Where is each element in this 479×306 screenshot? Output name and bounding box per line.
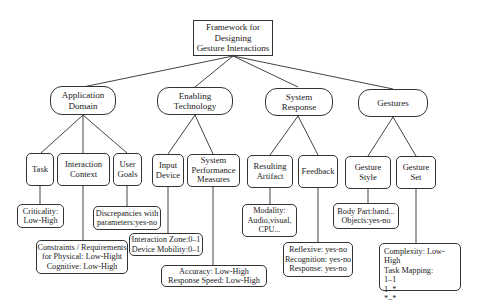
- attr-task-criticality: Criticality: Low-High: [17, 204, 64, 228]
- node-system-performance-measures: System Performance Measures: [187, 154, 240, 187]
- attr-gesture-set-complexity-mapping: Complexity: Low-High Task Mapping: 1–1 1…: [379, 243, 461, 291]
- node-gesture-style: Gesture Style: [345, 156, 391, 189]
- node-task: Task: [26, 153, 54, 186]
- root-node-framework: Framework for Designing Gesture Interact…: [193, 20, 273, 56]
- node-resulting-artifact: Resulting Artifact: [247, 155, 293, 188]
- node-user-goals: User Goals: [113, 153, 142, 186]
- attr-interaction-context-constraints: Constraints / Requirements for Physical:…: [36, 240, 128, 274]
- category-system-response: System Response: [265, 88, 333, 116]
- attr-user-goals-discrepancies: Discrepancies with parameters:yes-no: [93, 206, 161, 230]
- node-feedback: Feedback: [298, 155, 338, 188]
- category-application-domain: Application Domain: [50, 86, 116, 115]
- node-gesture-set: Gesture Set: [396, 156, 436, 189]
- node-input-device: Input Device: [152, 154, 184, 187]
- attr-feedback-types: Reflexive: yes-no Recognition: yes-no Re…: [283, 242, 353, 277]
- attr-gesture-style-body-objects: Body Part:hand... Objects:yes-no: [333, 203, 399, 229]
- category-gestures: Gestures: [358, 89, 428, 117]
- attr-input-device-zone-mobility: Interaction Zone:0–1 Device Mobility:0–1: [129, 233, 203, 256]
- category-enabling-technology: Enabling Technology: [157, 87, 233, 115]
- attr-artifact-modality: Modality: Audio,visual, CPU...: [242, 204, 297, 237]
- attr-performance-accuracy-speed: Accuracy: Low-High Response Speed: Low-H…: [161, 265, 267, 287]
- node-interaction-context: Interaction Context: [57, 153, 110, 186]
